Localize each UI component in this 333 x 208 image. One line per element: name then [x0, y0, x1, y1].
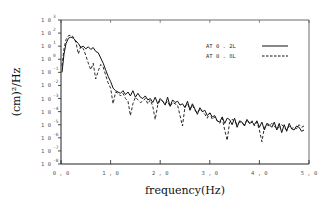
svg-text:-7: -7	[53, 145, 59, 150]
x-axis-ticks: 0 , 01 , 02 , 03 , 04 , 05 , 0	[53, 20, 318, 176]
svg-text:1 0: 1 0	[41, 30, 51, 36]
svg-text:-3: -3	[53, 93, 59, 98]
legend: AT 0 . 2LAT 0 . 8L	[206, 43, 288, 59]
legend-item: AT 0 . 8L	[206, 53, 288, 59]
svg-text:-4: -4	[53, 106, 59, 111]
svg-text:-8: -8	[53, 158, 59, 163]
svg-text:1 0: 1 0	[41, 122, 51, 128]
svg-text:3: 3	[53, 14, 56, 19]
y-tick-label: 1 0-6	[41, 132, 59, 141]
svg-text:1 0: 1 0	[41, 17, 51, 23]
y-tick-label: 1 0-4	[41, 106, 59, 115]
svg-text:1 0: 1 0	[41, 135, 51, 141]
svg-text:1 0: 1 0	[41, 96, 51, 102]
y-tick-label: 1 03	[41, 14, 56, 23]
y-tick-label: 1 0-3	[41, 93, 59, 102]
x-tick-label: 5 , 0	[301, 170, 318, 176]
y-tick-label: 1 0-1	[41, 66, 59, 75]
svg-text:1 0: 1 0	[41, 69, 51, 75]
data-series	[62, 35, 304, 142]
svg-text:AT 0 . 2L: AT 0 . 2L	[206, 43, 236, 49]
y-tick-label: 1 02	[41, 27, 56, 36]
y-tick-label: 1 00	[41, 53, 56, 62]
plot-frame	[61, 20, 309, 164]
x-tick-label: 3 , 0	[202, 170, 219, 176]
svg-text:-6: -6	[53, 132, 59, 137]
psd-chart: 1 031 021 011 001 0-11 0-21 0-31 0-41 0-…	[0, 0, 333, 208]
svg-text:-2: -2	[53, 79, 59, 84]
y-axis-title: (cm)²/Hz	[10, 67, 23, 116]
svg-text:1 0: 1 0	[41, 109, 51, 115]
series-at-0-8l	[62, 35, 304, 142]
y-tick-label: 1 01	[41, 40, 56, 49]
y-tick-label: 1 0-2	[41, 79, 59, 88]
x-tick-label: 1 , 0	[102, 170, 119, 176]
svg-text:1 0: 1 0	[41, 161, 51, 167]
y-tick-label: 1 0-5	[41, 119, 59, 128]
y-tick-label: 1 0-7	[41, 145, 59, 154]
svg-text:-5: -5	[53, 119, 59, 124]
legend-item: AT 0 . 2L	[206, 43, 288, 49]
y-axis-ticks: 1 031 021 011 001 0-11 0-21 0-31 0-41 0-…	[41, 14, 61, 167]
svg-text:1 0: 1 0	[41, 148, 51, 154]
x-axis-title: frequency(Hz)	[145, 184, 225, 197]
x-tick-label: 0 , 0	[53, 170, 70, 176]
x-tick-label: 2 , 0	[152, 170, 169, 176]
svg-text:1 0: 1 0	[41, 82, 51, 88]
svg-text:2: 2	[53, 27, 56, 32]
svg-text:-1: -1	[53, 66, 59, 71]
x-tick-label: 4 , 0	[251, 170, 268, 176]
svg-text:1: 1	[53, 40, 56, 45]
svg-text:AT 0 . 8L: AT 0 . 8L	[206, 53, 236, 59]
series-at-0-2l	[62, 37, 304, 133]
y-tick-label: 1 0-8	[41, 158, 59, 167]
svg-text:1 0: 1 0	[41, 56, 51, 62]
svg-text:0: 0	[53, 53, 56, 58]
svg-text:1 0: 1 0	[41, 43, 51, 49]
